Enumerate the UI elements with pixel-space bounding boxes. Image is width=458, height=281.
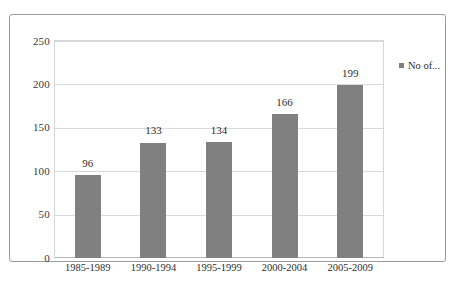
bar[interactable] <box>272 114 298 258</box>
bar-slot: 199 <box>317 41 383 258</box>
x-tick-label: 1995-1999 <box>186 262 252 274</box>
bar-value-label: 166 <box>276 97 293 108</box>
bar-value-label: 96 <box>82 158 93 169</box>
bar[interactable] <box>206 142 232 258</box>
bar-value-label: 199 <box>342 68 359 79</box>
y-axis: 250 200 150 100 50 0 <box>14 40 50 258</box>
legend-entry-label: No of... <box>408 60 440 71</box>
x-axis: 1985-1989 1990-1994 1995-1999 2000-2004 … <box>55 262 383 276</box>
bar-slot: 96 <box>55 41 121 258</box>
bar-series: 96 133 134 166 199 <box>55 41 383 258</box>
y-tick-label: 100 <box>16 166 50 177</box>
y-tick-label: 150 <box>16 122 50 133</box>
x-tick-label: 2005-2009 <box>317 262 383 274</box>
x-tick-label: 1985-1989 <box>55 262 121 274</box>
bar[interactable] <box>75 175 101 258</box>
bar[interactable] <box>140 143 166 259</box>
x-tick-label: 2000-2004 <box>252 262 318 274</box>
chart-legend: No of... <box>399 60 440 71</box>
bar-slot: 134 <box>186 41 252 258</box>
bar-value-label: 133 <box>145 125 162 136</box>
chart-figure: 250 200 150 100 50 0 96 133 134 166 <box>0 0 458 281</box>
bar-value-label: 134 <box>211 125 228 136</box>
y-tick-label: 0 <box>16 253 50 264</box>
bar-slot: 166 <box>252 41 318 258</box>
chart-outer-frame: 250 200 150 100 50 0 96 133 134 166 <box>9 14 446 262</box>
bar[interactable] <box>337 85 363 258</box>
y-tick-label: 250 <box>16 36 50 47</box>
x-tick-label: 1990-1994 <box>121 262 187 274</box>
y-tick-label: 200 <box>16 79 50 90</box>
y-tick-label: 50 <box>16 209 50 220</box>
bar-slot: 133 <box>121 41 187 258</box>
legend-marker-square-icon <box>399 63 404 68</box>
